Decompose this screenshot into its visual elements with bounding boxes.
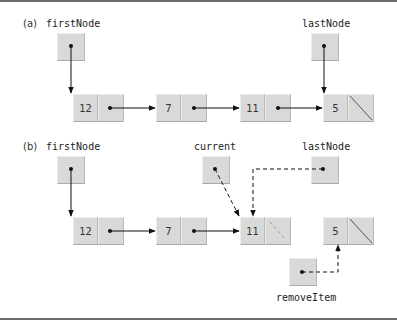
node-data-cell: 12 <box>73 94 98 122</box>
part-b-current-pointer-box <box>202 156 230 184</box>
node-data-cell: 7 <box>156 217 181 245</box>
node-link-cell <box>98 94 124 122</box>
node-null-link-cell <box>348 94 374 122</box>
part-b-firstnode-pointer-box <box>57 156 85 184</box>
node-data-cell: 12 <box>73 217 98 245</box>
node-value: 12 <box>74 218 97 244</box>
node-value: 7 <box>157 95 180 121</box>
node-value: 5 <box>324 95 347 121</box>
node-link-cell <box>265 94 291 122</box>
node-value: 7 <box>157 218 180 244</box>
node-value: 12 <box>74 95 97 121</box>
part-b-lastnode-label: lastNode <box>302 141 350 153</box>
node-data-cell: 5 <box>323 94 348 122</box>
node-value: 11 <box>241 95 264 121</box>
part-a-firstnode-pointer-box <box>57 33 85 61</box>
part-b-lastnode-pointer-box <box>311 156 339 184</box>
part-b-label: (b) <box>23 141 37 153</box>
part-b-removeitem-pointer-box <box>289 258 317 286</box>
node-new-null-link-cell <box>265 217 291 245</box>
node-data-cell: 11 <box>240 94 265 122</box>
part-a-lastnode-label: lastNode <box>302 18 350 30</box>
part-a-lastnode-pointer-box <box>311 33 339 61</box>
node-value: 11 <box>241 218 264 244</box>
node-value: 5 <box>324 218 347 244</box>
node-null-link-cell <box>348 217 374 245</box>
part-b-current-label: current <box>194 141 236 153</box>
node-data-cell: 5 <box>323 217 348 245</box>
node-data-cell: 7 <box>156 94 181 122</box>
part-b-firstnode-label: firstNode <box>46 141 100 153</box>
top-rule <box>0 0 397 2</box>
node-link-cell <box>181 94 207 122</box>
part-a-label: (a) <box>23 18 37 30</box>
part-a-firstnode-label: firstNode <box>46 18 100 30</box>
node-data-cell: 11 <box>240 217 265 245</box>
node-link-cell <box>181 217 207 245</box>
part-b-removeitem-label: removeItem <box>276 292 336 304</box>
node-link-cell <box>98 217 124 245</box>
